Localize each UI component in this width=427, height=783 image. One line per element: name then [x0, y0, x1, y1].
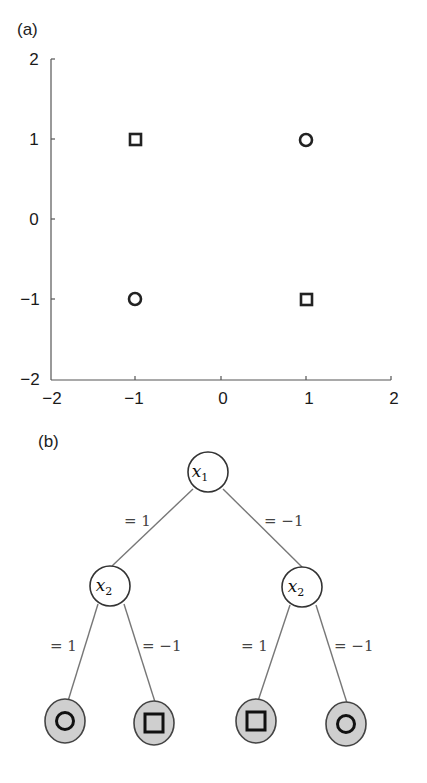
decision-tree: = 1 = −1 = 1 = −1 = 1 = −1 x1 x2 x2 — [0, 0, 427, 783]
node-variable: x — [96, 575, 106, 595]
left-node-x2: x2 — [90, 566, 130, 606]
node-subscript: 2 — [297, 586, 304, 599]
leaf-square — [236, 699, 276, 743]
leaf-square — [134, 701, 174, 745]
node-variable: x — [288, 576, 298, 596]
node-subscript: 2 — [105, 585, 112, 598]
root-node-x1: x1 — [188, 452, 228, 492]
edge-label: = −1 — [334, 637, 373, 655]
node-subscript: 1 — [201, 471, 208, 484]
edge-label: = 1 — [124, 512, 151, 530]
edge-label: = −1 — [264, 512, 303, 530]
leaf-circle — [45, 699, 85, 743]
edge-label: = 1 — [50, 637, 77, 655]
node-variable: x — [192, 461, 202, 481]
leaf-circle — [326, 702, 366, 746]
edge-label: = 1 — [241, 637, 268, 655]
edge-label: = −1 — [142, 637, 181, 655]
right-node-x2: x2 — [282, 567, 322, 607]
